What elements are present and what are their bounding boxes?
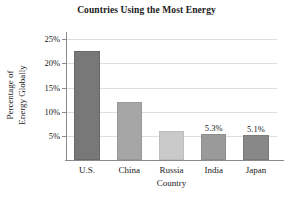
plot-area: 5%10%15%20%25% 5.3%5.1% U.S.ChinaRussiaI… xyxy=(66,32,277,160)
bar-chart-figure: Countries Using the Most Energy Percenta… xyxy=(0,0,293,200)
y-axis-tick-label: 10% xyxy=(44,107,60,117)
y-axis-line xyxy=(66,32,67,160)
bar-value-label: 5.1% xyxy=(247,124,265,134)
gridline xyxy=(66,39,277,40)
y-axis-tick-label: 20% xyxy=(44,58,60,68)
x-axis-title: Country xyxy=(66,178,277,188)
y-axis-tick-label: 15% xyxy=(44,83,60,93)
x-axis-label-japan: Japan xyxy=(246,165,267,175)
y-axis-tick-label: 25% xyxy=(44,34,60,44)
x-axis-label-india: India xyxy=(204,165,223,175)
bar-china[interactable] xyxy=(117,102,142,160)
chart-title: Countries Using the Most Energy xyxy=(0,5,293,15)
bar-japan[interactable]: 5.1% xyxy=(243,135,268,160)
bar-u-s[interactable] xyxy=(74,51,99,160)
x-axis-label-u-s: U.S. xyxy=(79,165,95,175)
bar-value-label: 5.3% xyxy=(205,123,223,133)
x-axis-line xyxy=(65,160,284,161)
bar-russia[interactable] xyxy=(159,131,184,160)
y-axis-title: Percentage of Energy Globally xyxy=(2,30,30,160)
y-axis-title-line-2: Energy Globally xyxy=(16,65,28,125)
y-axis-tick-label: 5% xyxy=(49,131,60,141)
x-axis-label-china: China xyxy=(119,165,141,175)
y-axis-title-text: Percentage of Energy Globally xyxy=(5,65,28,125)
x-axis-label-russia: Russia xyxy=(159,165,183,175)
y-axis-title-line-1: Percentage of xyxy=(5,65,17,125)
bar-india[interactable]: 5.3% xyxy=(201,134,226,160)
